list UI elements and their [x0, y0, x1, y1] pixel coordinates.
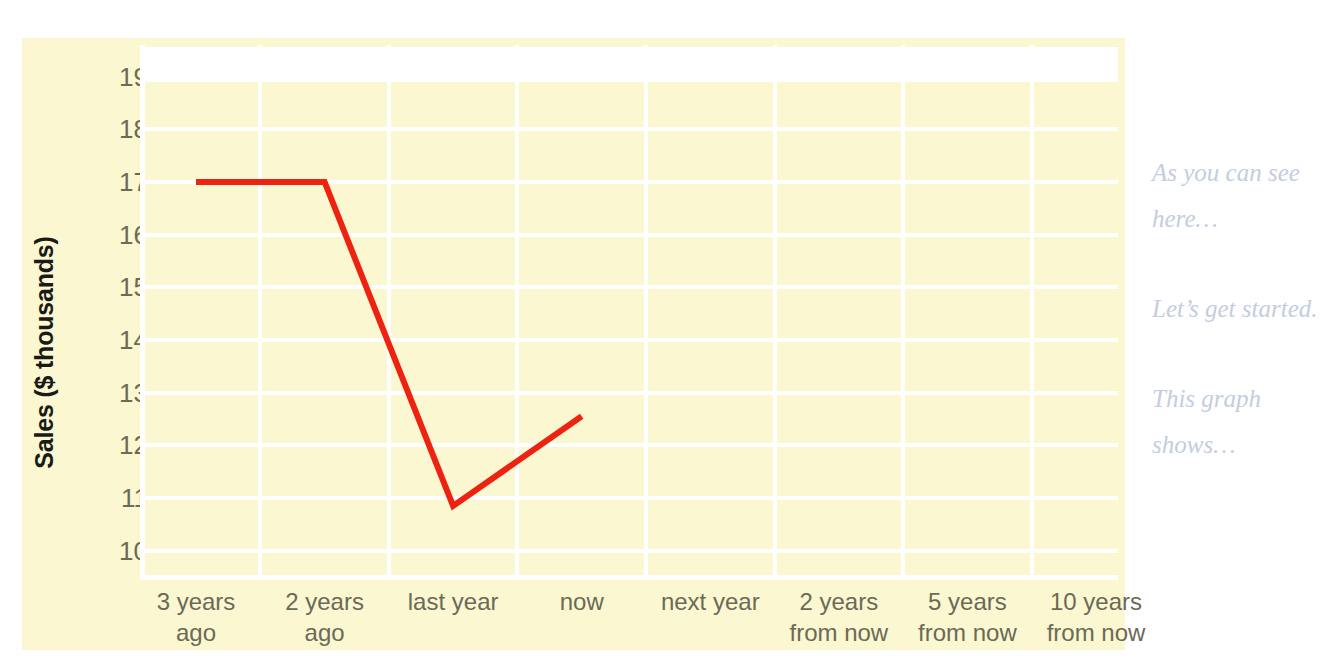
x-axis-tick-label: 10 yearsfrom now [1006, 586, 1186, 648]
annotation-note: Let’s get started. [1152, 286, 1327, 332]
plot-area [140, 45, 1118, 577]
chart-panel: Sales ($ thousands) 19181716151413121110… [22, 38, 1125, 650]
y-axis-title: Sales ($ thousands) [30, 143, 59, 563]
annotation-note: As you can see here… [1152, 150, 1327, 242]
x-axis-tick-labels: 3 yearsago2 yearsagolast yearnownext yea… [140, 586, 1118, 648]
annotation-note: This graph shows… [1152, 376, 1327, 468]
series-layer [140, 45, 1118, 577]
screenshot-canvas: Sales ($ thousands) 19181716151413121110… [0, 0, 1331, 669]
series-line-sales [196, 182, 582, 506]
annotation-notes: As you can see here…Let’s get started.Th… [1152, 150, 1327, 468]
